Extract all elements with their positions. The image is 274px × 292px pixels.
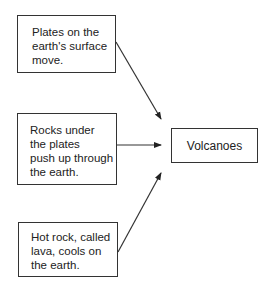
cause-box-rocks-push-up: Rocks under the plates push up through t…	[17, 113, 117, 185]
cause-box-lava-cools: Hot rock, called lava, cools on the eart…	[18, 222, 118, 277]
arrow-plates-to-volcanoes	[116, 42, 161, 119]
cause-text: Rocks under the plates push up through t…	[30, 123, 113, 179]
cause-text: Hot rock, called lava, cools on the eart…	[31, 230, 110, 272]
effect-box-volcanoes: Volcanoes	[171, 128, 258, 163]
arrow-lava-to-volcanoes	[118, 173, 161, 252]
cause-text: Plates on the earth's surface move.	[32, 25, 107, 67]
cause-box-plates-move: Plates on the earth's surface move.	[17, 15, 116, 73]
effect-text: Volcanoes	[172, 139, 257, 153]
